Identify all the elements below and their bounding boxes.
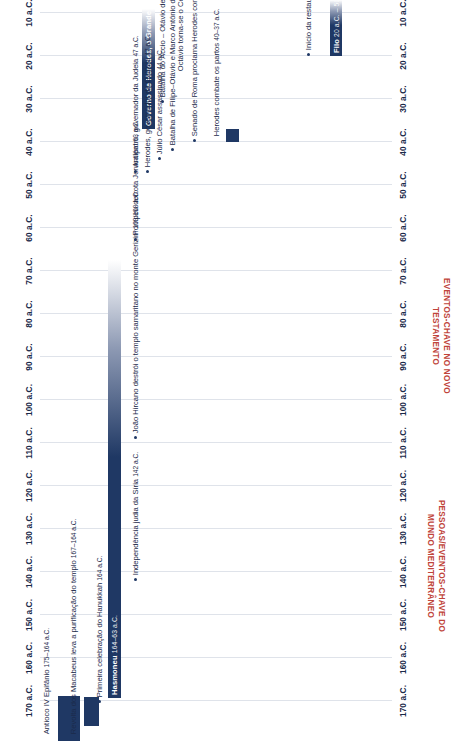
event-bullet-icon (158, 157, 161, 160)
axis-tick-bottom: 100 a.C. (398, 384, 408, 416)
event-bullet-icon (161, 100, 164, 103)
event-octavio-cesar-augusto: Octávio torna-se o César Augusto e gover… (176, 0, 185, 77)
axis-tick-top: 170 a.C. (24, 685, 34, 717)
axis-tick-bottom: 20 a.C. (398, 42, 408, 69)
section-title-mediterranean: PESSOAS/EVENTOS-CHAVE DO MUNDO MEDITERRÂ… (425, 491, 446, 641)
axis-tick-bottom: 30 a.C. (398, 85, 408, 112)
section-title-new-testament: EVENTOS-CHAVE NO NOVO TESTAMENTO (430, 261, 451, 411)
event-antipatro-judeia: Antípatro, governador da Judeia 47 a.C. (131, 35, 140, 173)
axis-tick-top: 150 a.C. (24, 599, 34, 631)
bar-label-filo: Filo 20 a.C. – 50 d.C. (332, 0, 342, 53)
event-bullet-icon (134, 238, 137, 241)
axis-tick-bottom: 50 a.C. (398, 171, 408, 198)
axis-tick-bottom: 10 a.C. (398, 0, 408, 27)
axis-tick-bottom: 140 a.C. (398, 556, 408, 588)
bar-herodes-partos (226, 129, 239, 142)
axis-tick-bottom: 60 a.C. (398, 214, 408, 241)
axis-tick-top: 160 a.C. (24, 642, 34, 674)
event-herodes-galileia: Herodes, governador da Galileia 47 a.C. (143, 34, 152, 173)
axis-tick-bottom: 150 a.C. (398, 599, 408, 631)
axis-tick-top: 80 a.C. (24, 300, 34, 327)
gridline (40, 528, 392, 529)
event-bullet-icon (193, 139, 196, 142)
gridline (40, 184, 392, 185)
axis-tick-top: 90 a.C. (24, 343, 34, 370)
bar-label-hasmoneu: Hasmoneu 164–63 a.C. (110, 615, 120, 695)
axis-tick-top: 130 a.C. (24, 513, 34, 545)
event-bullet-icon (146, 170, 149, 173)
axis-tick-top: 110 a.C. (24, 427, 34, 459)
axis-tick-top: 100 a.C. (24, 384, 34, 416)
event-senado-roma-herodes-rei: Senado de Roma proclama Herodes como rei… (190, 0, 199, 142)
gridline (40, 442, 392, 443)
timeline-canvas: 170 a.C. 160 a.C. 150 a.C. 140 a.C. 130 … (0, 0, 474, 741)
axis-tick-top: 140 a.C. (24, 556, 34, 588)
event-hanukkah: Primeira celebração do Hanukkah 164 a.C. (95, 556, 104, 703)
gridline (40, 399, 392, 400)
event-inicio-restauracao-templo: Início da restauração do templo 20 a.C. (304, 0, 313, 56)
axis-tick-bottom: 80 a.C. (398, 300, 408, 327)
event-bullet-icon (134, 436, 137, 439)
event-bullet-icon (134, 170, 137, 173)
gridline (40, 270, 392, 271)
gridline (40, 227, 392, 228)
axis-tick-top: 40 a.C. (24, 128, 34, 155)
axis-tick-top: 20 a.C. (24, 42, 34, 69)
gridline (40, 485, 392, 486)
axis-tick-top: 70 a.C. (24, 257, 34, 284)
event-bullet-icon (171, 148, 174, 151)
axis-tick-bottom: 70 a.C. (398, 257, 408, 284)
event-bullet-icon (307, 53, 310, 56)
gridline (40, 571, 392, 572)
gridline (40, 313, 392, 314)
gridline (40, 657, 392, 658)
event-batalha-accio: Batalha do Áccio – Otávio derrota Antôni… (158, 0, 167, 103)
axis-tick-top: 30 a.C. (24, 85, 34, 112)
event-herodes-combate-partos: Herodes combate os partos 40–37 a.C. (212, 9, 221, 142)
event-bullet-icon (134, 578, 137, 581)
bar-label-antioco-iv: Antíoco IV Epifânio 175–164 a.C. (42, 628, 51, 740)
axis-tick-bottom: 130 a.C. (398, 513, 408, 545)
axis-tick-top: 120 a.C. (24, 470, 34, 502)
axis-tick-bottom: 160 a.C. (398, 642, 408, 674)
axis-tick-bottom: 90 a.C. (398, 343, 408, 370)
axis-tick-bottom: 170 a.C. (398, 685, 408, 717)
axis-tick-bottom: 110 a.C. (398, 427, 408, 459)
axis-tick-top: 50 a.C. (24, 171, 34, 198)
gridline (40, 356, 392, 357)
axis-tick-bottom: 120 a.C. (398, 470, 408, 502)
event-independencia-judia: Independência judia da Síria 142 a.C. (131, 452, 140, 581)
axis-tick-top: 10 a.C. (24, 0, 34, 27)
axis-tick-bottom: 40 a.C. (398, 128, 408, 155)
axis-tick-top: 60 a.C. (24, 214, 34, 241)
gridline (40, 614, 392, 615)
bar-label-revolta-macabeus: Revolta dos Macabeus leva a purificação … (69, 519, 78, 740)
event-bullet-icon (98, 700, 101, 703)
